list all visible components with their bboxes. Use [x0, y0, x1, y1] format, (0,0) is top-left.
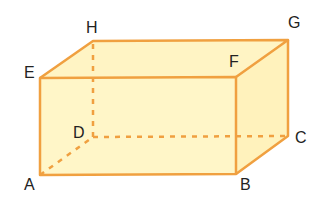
vertex-label-B: B — [240, 176, 251, 193]
cuboid-diagram: H G E F D C A B — [0, 0, 321, 198]
vertex-label-E: E — [24, 64, 35, 81]
vertex-label-G: G — [288, 14, 300, 31]
vertex-label-A: A — [24, 176, 35, 193]
vertex-label-D: D — [73, 124, 85, 141]
vertex-label-H: H — [86, 19, 98, 36]
vertex-label-C: C — [295, 129, 307, 146]
vertex-label-F: F — [229, 53, 239, 70]
front-face — [40, 77, 236, 175]
